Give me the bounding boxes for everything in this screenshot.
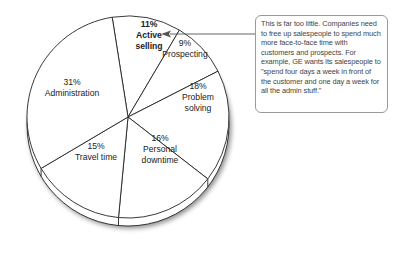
callout-text: This is far too little. Companies need t…	[261, 19, 381, 95]
pie-slices	[27, 16, 229, 218]
callout-box: This is far too little. Companies need t…	[255, 15, 388, 113]
